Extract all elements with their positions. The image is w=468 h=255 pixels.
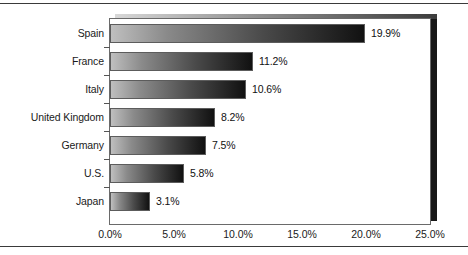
- bar: [110, 164, 184, 183]
- bar-value-label: 10.6%: [252, 83, 281, 95]
- bar-series: 19.9%11.2%10.6%8.2%7.5%5.8%3.1%: [110, 19, 430, 215]
- category-label: Italy: [0, 75, 104, 103]
- bar: [110, 108, 215, 127]
- bar-row: 10.6%: [110, 75, 430, 103]
- bar-row: 19.9%: [110, 19, 430, 47]
- category-axis-labels: SpainFranceItalyUnited KingdomGermanyU.S…: [0, 19, 104, 215]
- category-label: France: [0, 47, 104, 75]
- bar-value-label: 3.1%: [156, 195, 180, 207]
- bar-chart-figure: SpainFranceItalyUnited KingdomGermanyU.S…: [0, 0, 468, 255]
- category-label: Japan: [0, 187, 104, 215]
- category-label: United Kingdom: [0, 103, 104, 131]
- value-axis-tick-label: 25.0%: [415, 228, 444, 240]
- bar: [110, 52, 253, 71]
- bar-row: 11.2%: [110, 47, 430, 75]
- bar-row: 3.1%: [110, 187, 430, 215]
- category-label: Spain: [0, 19, 104, 47]
- bar-value-label: 19.9%: [371, 27, 400, 39]
- bar: [110, 192, 150, 211]
- value-axis-tick-label: 20.0%: [351, 228, 380, 240]
- value-axis-tick-label: 15.0%: [287, 228, 316, 240]
- bar-value-label: 7.5%: [212, 139, 236, 151]
- bar: [110, 80, 246, 99]
- page-rule-bottom: [0, 246, 468, 247]
- bar-row: 5.8%: [110, 159, 430, 187]
- category-label: U.S.: [0, 159, 104, 187]
- value-axis-tick-label: 10.0%: [223, 228, 252, 240]
- bar: [110, 136, 206, 155]
- value-axis-tick-label: 5.0%: [162, 228, 186, 240]
- bar: [110, 24, 365, 43]
- bar-value-label: 8.2%: [221, 111, 245, 123]
- bar-row: 7.5%: [110, 131, 430, 159]
- value-axis-tick-label: 0.0%: [98, 228, 122, 240]
- page-rule-top: [0, 3, 468, 4]
- category-label: Germany: [0, 131, 104, 159]
- bar-row: 8.2%: [110, 103, 430, 131]
- bar-value-label: 5.8%: [190, 167, 214, 179]
- bar-value-label: 11.2%: [259, 55, 288, 67]
